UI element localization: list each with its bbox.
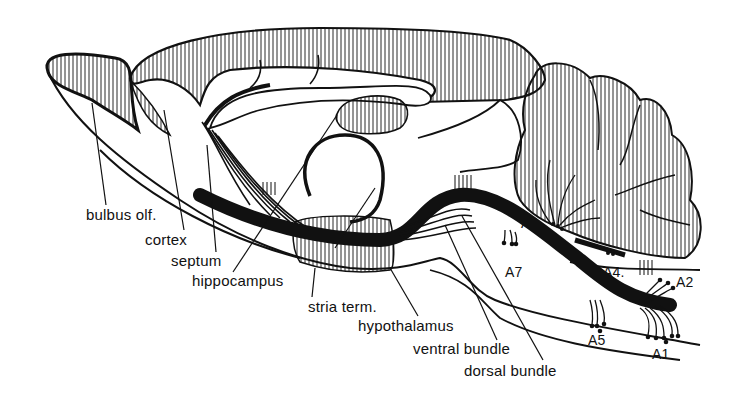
label-a4: A4. [603,265,625,279]
label-a2: A2 [676,275,694,289]
label-a1: A1 [652,347,670,361]
thalamus-loop [305,135,383,222]
hippocampus-region [336,96,408,134]
label-stria-term: stria term. [308,299,377,314]
label-ventral-bundle: ventral bundle [413,341,510,356]
brain-pathway-diagram: bulbus olf. cortex septum hippocampus st… [0,0,735,400]
label-a7: A7 [505,265,523,279]
label-hypothalamus: hypothalamus [358,318,454,333]
label-septum: septum [171,253,221,268]
brain-outline-drawing [0,0,735,400]
label-a5: A5 [588,333,606,347]
label-hippocampus: hippocampus [192,273,283,288]
olfactory-bulb [47,54,138,130]
label-bulbus-olf: bulbus olf. [86,207,157,222]
label-dorsal-bundle: dorsal bundle [464,363,557,378]
label-cortex: cortex [145,232,187,247]
label-a6: A6 [521,216,539,230]
